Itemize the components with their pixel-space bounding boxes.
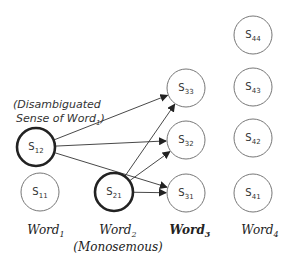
word-note-2: (Monosemous)	[73, 240, 163, 254]
word-label-1: Word1	[27, 223, 64, 239]
sense-label-s43: S43	[233, 77, 273, 97]
sense-label-s21: S21	[94, 182, 134, 202]
sense-label-s44: S44	[233, 25, 273, 45]
word-label-4: Word4	[241, 223, 278, 239]
arrow-s12-to-s32	[55, 141, 166, 146]
sense-label-s32: S32	[166, 130, 206, 150]
annotation-line-1: (Disambiguated	[13, 98, 105, 112]
sense-label-s41: S41	[233, 183, 273, 203]
annotation-line-2: Sense of Word1)	[13, 112, 105, 130]
sense-label-s31: S31	[166, 183, 206, 203]
disambiguated-sense-annotation: (Disambiguated Sense of Word1)	[13, 98, 105, 130]
sense-label-s11: S11	[20, 182, 60, 202]
word-label-2: Word2	[99, 223, 136, 239]
sense-label-s12: S12	[16, 137, 56, 157]
word-label-3: Word3	[170, 223, 211, 239]
sense-label-s42: S42	[233, 128, 273, 148]
sense-label-s33: S33	[166, 78, 206, 98]
arrow-s21-to-s32	[129, 152, 169, 181]
